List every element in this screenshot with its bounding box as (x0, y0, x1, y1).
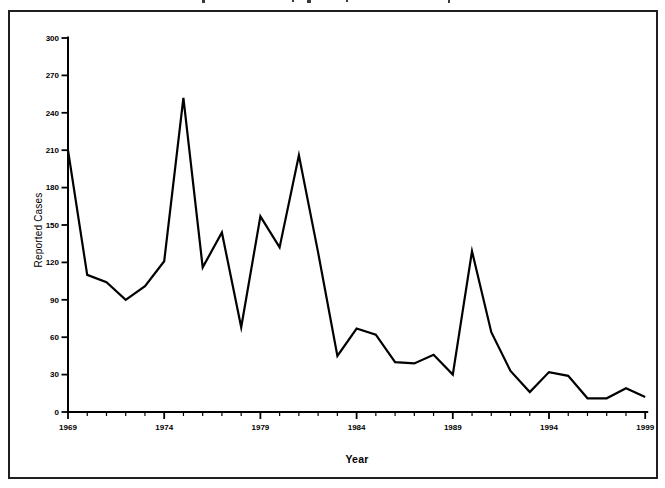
x-tick-label: 1989 (444, 423, 462, 432)
x-tick-label: 1969 (59, 423, 77, 432)
y-tick-label: 0 (55, 408, 60, 417)
y-tick-label: 60 (50, 333, 59, 342)
x-tick-label: 1994 (540, 423, 558, 432)
line-chart-canvas: 0306090120150180210240270300196919741979… (0, 0, 665, 488)
y-tick-label: 120 (46, 258, 60, 267)
y-tick-label: 240 (46, 109, 60, 118)
reported-cases-line (68, 98, 645, 399)
x-tick-label: 1979 (252, 423, 270, 432)
x-axis-title: Year (346, 453, 369, 465)
x-tick-label: 1974 (155, 423, 173, 432)
y-tick-label: 90 (50, 296, 59, 305)
y-axis-title: Reported Cases (33, 192, 44, 267)
y-tick-label: 150 (46, 221, 60, 230)
x-tick-label: 1999 (636, 423, 654, 432)
y-tick-label: 210 (46, 146, 60, 155)
y-tick-label: 300 (46, 34, 60, 43)
page: 0306090120150180210240270300196919741979… (0, 0, 665, 488)
y-tick-label: 270 (46, 71, 60, 80)
x-tick-label: 1984 (348, 423, 366, 432)
y-tick-label: 180 (46, 183, 60, 192)
y-tick-label: 30 (50, 370, 59, 379)
